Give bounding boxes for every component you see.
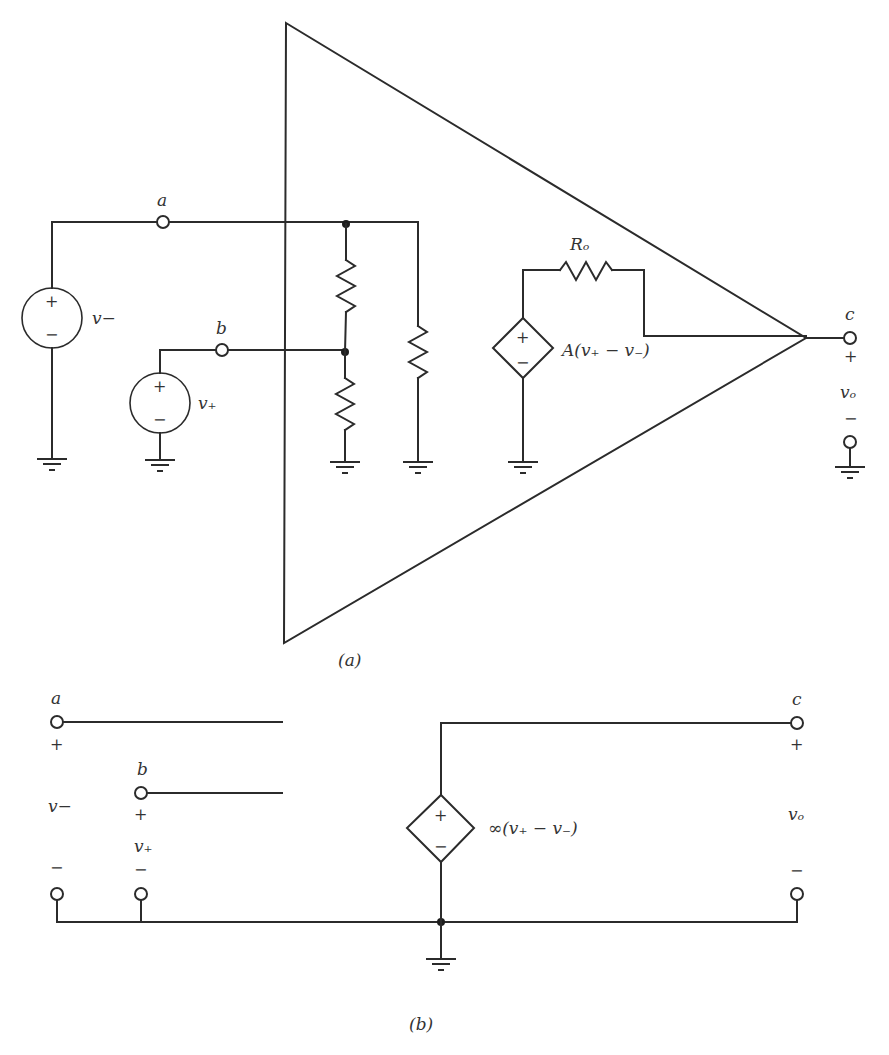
ground-icon — [146, 460, 174, 471]
ground-icon — [509, 462, 537, 473]
dep-minus-sign: − — [516, 353, 529, 372]
v-minus-minus-sign: − — [45, 325, 58, 344]
input-a-ground-terminal[interactable] — [51, 888, 63, 900]
op-amp-circuit-figure: + − v− a + − v₊ b — [0, 0, 889, 1055]
node-c-label-b: c — [792, 689, 802, 709]
v-minus-label: v− — [92, 308, 116, 328]
ideal-dep-plus-sign: + — [434, 806, 447, 825]
input-b-minus-sign: − — [134, 860, 147, 879]
input-a-plus-sign: + — [50, 735, 63, 754]
node-b-label-b: b — [137, 759, 148, 779]
ideal-dep-minus-sign: − — [434, 837, 447, 856]
ground-icon — [331, 462, 359, 473]
v-plus-label: v₊ — [198, 393, 217, 413]
ro-label: Rₒ — [569, 234, 590, 254]
input-a-minus-sign: − — [50, 858, 63, 877]
ground-icon — [427, 959, 455, 970]
resistor-icon — [337, 260, 355, 312]
output-resistor-icon — [560, 262, 612, 280]
output-ground-terminal[interactable] — [844, 436, 856, 448]
input-b-label: v₊ — [134, 836, 153, 856]
node-a-terminal-b[interactable] — [51, 716, 63, 728]
resistor-icon — [336, 378, 354, 430]
node-a-label-b: a — [51, 688, 61, 708]
node-a-terminal[interactable] — [157, 216, 169, 228]
part-b-circuit: a + v− − b + v₊ − + − ∞(v₊ − v₋) c + vₒ … — [48, 688, 805, 1034]
ground-icon — [404, 462, 432, 473]
ideal-dependent-label: ∞(v₊ − v₋) — [488, 818, 578, 838]
resistor-icon — [409, 326, 427, 378]
node-c-terminal[interactable] — [844, 332, 856, 344]
input-a-label: v− — [48, 796, 72, 816]
op-amp-triangle — [284, 23, 806, 643]
input-b-plus-sign: + — [134, 805, 147, 824]
vo-label-b: vₒ — [788, 804, 805, 824]
ground-icon — [836, 467, 864, 478]
node-c-label: c — [845, 304, 855, 324]
caption-a: (a) — [338, 650, 361, 670]
vo-label: vₒ — [840, 382, 857, 402]
part-a-circuit: + − v− a + − v₊ b — [22, 23, 864, 670]
vo-plus-sign: + — [844, 347, 857, 366]
ground-icon — [38, 459, 66, 470]
vo-plus-sign-b: + — [790, 735, 803, 754]
dependent-source-label: A(v₊ − v₋) — [560, 340, 650, 360]
output-ground-terminal-b[interactable] — [791, 888, 803, 900]
v-plus-plus-sign: + — [153, 377, 166, 396]
node-b-terminal[interactable] — [216, 344, 228, 356]
node-c-terminal-b[interactable] — [791, 717, 803, 729]
input-b-ground-terminal[interactable] — [135, 888, 147, 900]
v-plus-minus-sign: − — [153, 410, 166, 429]
node-b-terminal-b[interactable] — [135, 787, 147, 799]
caption-b: (b) — [409, 1014, 433, 1034]
vo-minus-sign: − — [844, 409, 857, 428]
vo-minus-sign-b: − — [790, 861, 803, 880]
node-a-label: a — [157, 190, 167, 210]
v-minus-plus-sign: + — [45, 292, 58, 311]
node-b-label: b — [216, 318, 227, 338]
dep-plus-sign: + — [516, 328, 529, 347]
